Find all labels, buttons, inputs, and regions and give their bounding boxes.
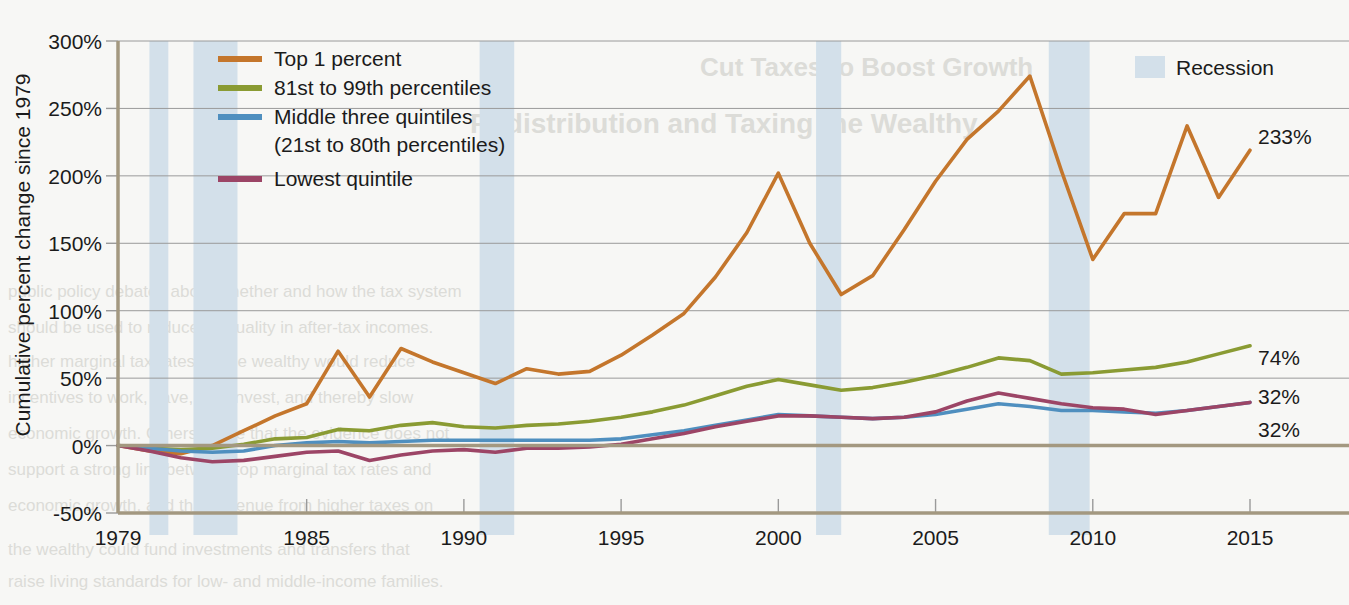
y-axis-title: Cumulative percent change since 1979 xyxy=(11,73,34,436)
series-end-label: 74% xyxy=(1258,346,1300,369)
x-tick-label: 1985 xyxy=(283,526,330,549)
y-tick-label: 300% xyxy=(48,30,102,53)
x-tick-label: 2005 xyxy=(912,526,959,549)
income-growth-line-chart: 300%250%200%150%100%50%0%-50% 1979198519… xyxy=(0,0,1349,605)
legend-label: Middle three quintiles xyxy=(274,105,472,128)
recession-band xyxy=(149,41,168,535)
y-tick-label: -50% xyxy=(53,502,102,525)
y-tick-label: 200% xyxy=(48,165,102,188)
legend: Top 1 percent81st to 99th percentilesMid… xyxy=(218,47,505,190)
legend-label: (21st to 80th percentiles) xyxy=(274,133,505,156)
y-tick-label: 250% xyxy=(48,97,102,120)
y-axis-tick-labels: 300%250%200%150%100%50%0%-50% xyxy=(48,30,102,525)
recession-legend-swatch xyxy=(1135,56,1165,78)
series-end-label: 32% xyxy=(1258,385,1300,408)
legend-label: Top 1 percent xyxy=(274,47,401,70)
recession-band xyxy=(1049,41,1090,535)
series-end-label: 32% xyxy=(1258,418,1300,441)
x-axis-tick-labels: 19791985199019952000200520102015 xyxy=(95,526,1274,549)
series-end-labels: 233%74%32%32% xyxy=(1258,125,1312,441)
chart-svg: 300%250%200%150%100%50%0%-50% 1979198519… xyxy=(0,0,1349,605)
legend-label: Lowest quintile xyxy=(274,167,413,190)
x-tick-label: 2010 xyxy=(1069,526,1116,549)
x-tick-label: 1995 xyxy=(598,526,645,549)
series-end-label: 233% xyxy=(1258,125,1312,148)
y-tick-label: 100% xyxy=(48,300,102,323)
x-tick-label: 2015 xyxy=(1227,526,1274,549)
y-tick-label: 0% xyxy=(72,435,102,458)
x-tick-label: 1990 xyxy=(441,526,488,549)
recession-band xyxy=(480,41,515,535)
y-tick-label: 50% xyxy=(60,367,102,390)
recession-legend-label: Recession xyxy=(1176,56,1274,79)
x-tick-label: 1979 xyxy=(95,526,142,549)
y-tick-label: 150% xyxy=(48,232,102,255)
x-tick-label: 2000 xyxy=(755,526,802,549)
legend-label: 81st to 99th percentiles xyxy=(274,76,491,99)
recession-legend: Recession xyxy=(1135,56,1274,79)
